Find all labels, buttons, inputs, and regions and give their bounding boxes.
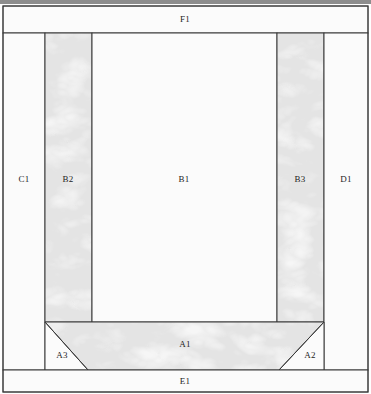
region-label-B1: B1 xyxy=(178,174,189,184)
region-label-B3: B3 xyxy=(294,174,305,184)
region-label-B2: B2 xyxy=(62,174,73,184)
region-label-F1: F1 xyxy=(180,14,190,24)
region-C1-shape[interactable] xyxy=(3,33,45,370)
region-fills xyxy=(3,6,368,392)
region-label-A1: A1 xyxy=(179,339,191,349)
region-label-E1: E1 xyxy=(180,376,191,386)
region-label-A3: A3 xyxy=(56,350,68,360)
region-label-D1: D1 xyxy=(340,174,352,184)
region-label-A2: A2 xyxy=(304,350,316,360)
region-label-C1: C1 xyxy=(18,174,29,184)
region-D1-shape[interactable] xyxy=(324,33,368,370)
section-drawing: F1 C1 B2 B1 B3 D1 A1 A3 A2 E1 xyxy=(0,0,371,394)
section-diagram-root: F1 C1 B2 B1 B3 D1 A1 A3 A2 E1 xyxy=(0,0,371,394)
